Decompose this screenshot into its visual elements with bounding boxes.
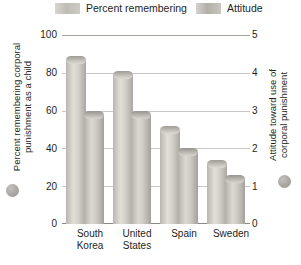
bar-percent-remembering-sweden xyxy=(207,160,227,224)
right-tick-1: 1 xyxy=(252,182,276,192)
bar-percent-remembering-south-korea xyxy=(66,56,86,224)
category-label-sweden: Sweden xyxy=(203,228,259,240)
percent-swatch-icon xyxy=(55,3,80,14)
bar-cap xyxy=(84,111,104,119)
bar-chart: Percent remembering Attitude Percent rem… xyxy=(0,0,301,265)
bar-cap xyxy=(225,175,245,183)
plot-area xyxy=(62,35,250,224)
bar-cap xyxy=(178,148,198,156)
bar-body xyxy=(178,152,198,224)
bar-attitude-spain xyxy=(178,148,198,224)
left-tick-80: 80 xyxy=(33,68,57,78)
bar-cap xyxy=(66,56,86,64)
chart-legend: Percent remembering Attitude xyxy=(0,0,301,18)
legend-item-percent-remembering: Percent remembering xyxy=(55,1,187,15)
legend-label-percent-remembering: Percent remembering xyxy=(86,2,187,14)
legend-item-attitude: Attitude xyxy=(196,1,263,15)
left-axis-title: Percent remembering corporal punishment … xyxy=(11,27,33,187)
bar-body xyxy=(160,130,180,224)
bar-attitude-south-korea xyxy=(84,111,104,224)
bar-cap xyxy=(160,126,180,134)
attitude-swatch-icon xyxy=(196,3,221,14)
left-tick-60: 60 xyxy=(33,106,57,116)
right-axis-marker-dot xyxy=(278,175,291,188)
left-axis-marker-dot xyxy=(6,184,19,197)
bar-body xyxy=(84,115,104,224)
bar-body xyxy=(113,75,133,224)
bar-cap xyxy=(113,71,133,79)
bar-body xyxy=(131,115,151,224)
bar-group-united-states xyxy=(113,35,157,224)
right-tick-2: 2 xyxy=(252,144,276,154)
left-tick-40: 40 xyxy=(33,144,57,154)
bar-body xyxy=(66,60,86,224)
right-tick-5: 5 xyxy=(252,30,276,40)
bar-attitude-united-states xyxy=(131,111,151,224)
bar-group-sweden xyxy=(207,35,251,224)
bar-percent-remembering-united-states xyxy=(113,71,133,224)
bar-attitude-sweden xyxy=(225,175,245,224)
bar-group-spain xyxy=(160,35,204,224)
bar-body xyxy=(225,179,245,224)
left-tick-100: 100 xyxy=(33,30,57,40)
bar-group-south-korea xyxy=(66,35,110,224)
bar-percent-remembering-spain xyxy=(160,126,180,224)
bar-body xyxy=(207,164,227,224)
bar-cap xyxy=(131,111,151,119)
left-tick-0: 0 xyxy=(33,219,57,229)
legend-label-attitude: Attitude xyxy=(227,2,263,14)
left-tick-20: 20 xyxy=(33,182,57,192)
right-tick-3: 3 xyxy=(252,106,276,116)
right-tick-4: 4 xyxy=(252,68,276,78)
bar-cap xyxy=(207,160,227,168)
